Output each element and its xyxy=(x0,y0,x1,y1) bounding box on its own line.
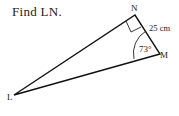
right-angle-marker xyxy=(126,21,141,32)
triangle-LNM xyxy=(14,15,160,95)
vertex-label-M: M xyxy=(160,50,168,60)
side-length-NM: 25 cm xyxy=(149,23,170,33)
vertex-label-L: L xyxy=(7,92,13,102)
triangle-diagram: N M L 25 cm 73° xyxy=(0,0,179,116)
angle-label-M: 73° xyxy=(139,44,152,54)
vertex-label-N: N xyxy=(131,3,138,13)
